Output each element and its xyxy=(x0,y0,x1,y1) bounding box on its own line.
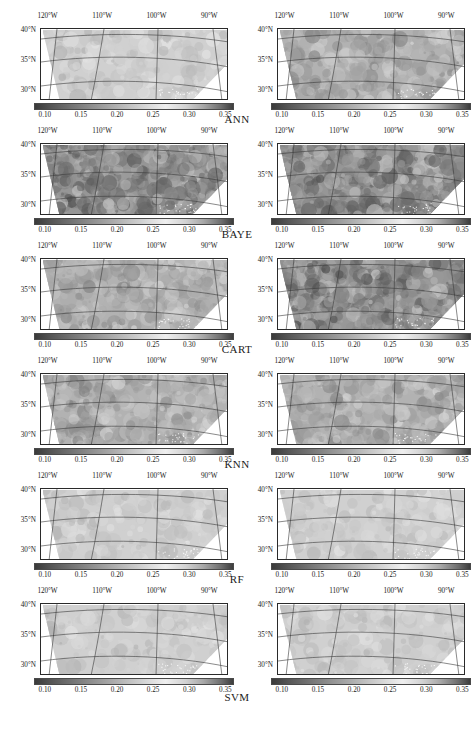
colorbar-gradient xyxy=(34,218,234,225)
raster-swath xyxy=(41,604,227,674)
map-frame xyxy=(277,28,465,100)
panel-row-ann: 120°W110°W100°W90°W40°N35°N30°N0.100.150… xyxy=(0,0,474,115)
raster-swath xyxy=(278,29,464,99)
rf-right-map: 120°W110°W100°W90°W40°N35°N30°N0.100.150… xyxy=(237,460,474,575)
x-tick-label: 110°W xyxy=(329,587,349,595)
y-tick-label: 40°N xyxy=(21,256,36,264)
colorbar: 0.100.150.200.250.300.35 xyxy=(34,448,234,455)
y-tick-label: 40°N xyxy=(258,26,273,34)
x-tick-label: 100°W xyxy=(384,472,404,480)
colorbar-gradient xyxy=(271,563,471,570)
knn-left-map: 120°W110°W100°W90°W40°N35°N30°N0.100.150… xyxy=(0,345,237,460)
x-tick-label: 110°W xyxy=(92,357,112,365)
colorbar-gradient xyxy=(271,103,471,110)
y-tick-label: 40°N xyxy=(258,486,273,494)
x-tick-label: 90°W xyxy=(201,242,217,250)
ann-left-map: 120°W110°W100°W90°W40°N35°N30°N0.100.150… xyxy=(0,0,237,115)
x-tick-label: 120°W xyxy=(38,357,58,365)
x-tick-label: 110°W xyxy=(329,12,349,20)
colorbar-gradient xyxy=(34,333,234,340)
x-tick-label: 110°W xyxy=(92,242,112,250)
map-grid-figure: 120°W110°W100°W90°W40°N35°N30°N0.100.150… xyxy=(0,0,474,730)
x-tick-label: 120°W xyxy=(275,587,295,595)
y-tick-label: 35°N xyxy=(21,286,36,294)
map-frame xyxy=(40,488,228,560)
y-tick-label: 35°N xyxy=(21,631,36,639)
y-tick-label: 40°N xyxy=(21,371,36,379)
x-tick-label: 90°W xyxy=(201,587,217,595)
map-plot-area xyxy=(40,373,228,445)
colorbar: 0.100.150.200.250.300.35 xyxy=(271,333,471,340)
colorbar-gradient xyxy=(34,678,234,685)
baye-right-map: 120°W110°W100°W90°W40°N35°N30°N0.100.150… xyxy=(237,115,474,230)
x-tick-label: 120°W xyxy=(38,12,58,20)
x-tick-label: 90°W xyxy=(438,587,454,595)
colorbar-gradient xyxy=(34,103,234,110)
x-tick-label: 90°W xyxy=(201,127,217,135)
x-tick-label: 90°W xyxy=(201,12,217,20)
knn-right-map: 120°W110°W100°W90°W40°N35°N30°N0.100.150… xyxy=(237,345,474,460)
raster-swath xyxy=(278,489,464,559)
colorbar: 0.100.150.200.250.300.35 xyxy=(34,218,234,225)
x-tick-label: 90°W xyxy=(201,472,217,480)
map-frame xyxy=(277,488,465,560)
y-tick-label: 30°N xyxy=(21,201,36,209)
map-plot-area xyxy=(40,28,228,100)
x-tick-label: 100°W xyxy=(147,242,167,250)
x-tick-label: 110°W xyxy=(92,587,112,595)
x-tick-label: 120°W xyxy=(38,472,58,480)
y-tick-label: 40°N xyxy=(21,601,36,609)
colorbar: 0.100.150.200.250.300.35 xyxy=(271,448,471,455)
colorbar: 0.100.150.200.250.300.35 xyxy=(34,103,234,110)
map-frame xyxy=(40,28,228,100)
baye-left-map: 120°W110°W100°W90°W40°N35°N30°N0.100.150… xyxy=(0,115,237,230)
y-tick-label: 30°N xyxy=(21,546,36,554)
y-tick-label: 40°N xyxy=(258,601,273,609)
x-tick-label: 100°W xyxy=(147,12,167,20)
y-tick-label: 40°N xyxy=(258,256,273,264)
colorbar-gradient xyxy=(271,448,471,455)
svm-right-map: 120°W110°W100°W90°W40°N35°N30°N0.100.150… xyxy=(237,575,474,690)
x-tick-label: 90°W xyxy=(438,472,454,480)
map-frame xyxy=(40,258,228,330)
raster-swath xyxy=(278,374,464,444)
map-frame xyxy=(277,373,465,445)
x-tick-label: 120°W xyxy=(38,127,58,135)
map-plot-area xyxy=(277,28,465,100)
colorbar-gradient xyxy=(271,218,471,225)
raster-swath xyxy=(278,259,464,329)
y-tick-label: 40°N xyxy=(21,486,36,494)
y-tick-label: 30°N xyxy=(258,661,273,669)
raster-swath xyxy=(41,144,227,214)
x-tick-label: 110°W xyxy=(329,472,349,480)
raster-swath xyxy=(278,604,464,674)
map-frame xyxy=(40,143,228,215)
x-tick-label: 110°W xyxy=(329,242,349,250)
map-plot-area xyxy=(40,143,228,215)
x-tick-label: 100°W xyxy=(384,12,404,20)
y-tick-label: 35°N xyxy=(21,171,36,179)
cart-left-map: 120°W110°W100°W90°W40°N35°N30°N0.100.150… xyxy=(0,230,237,345)
cart-right-map: 120°W110°W100°W90°W40°N35°N30°N0.100.150… xyxy=(237,230,474,345)
y-tick-label: 35°N xyxy=(258,516,273,524)
map-frame xyxy=(277,143,465,215)
x-tick-label: 90°W xyxy=(201,357,217,365)
colorbar: 0.100.150.200.250.300.35 xyxy=(271,563,471,570)
y-tick-label: 30°N xyxy=(21,86,36,94)
y-tick-label: 30°N xyxy=(21,431,36,439)
y-tick-label: 35°N xyxy=(258,401,273,409)
y-tick-label: 30°N xyxy=(258,546,273,554)
row-label-svm: SVM xyxy=(0,691,474,703)
map-frame xyxy=(277,258,465,330)
x-tick-label: 90°W xyxy=(438,127,454,135)
panel-row-knn: 120°W110°W100°W90°W40°N35°N30°N0.100.150… xyxy=(0,345,474,460)
map-frame xyxy=(40,373,228,445)
y-tick-label: 30°N xyxy=(258,86,273,94)
y-tick-label: 40°N xyxy=(258,141,273,149)
y-tick-label: 30°N xyxy=(258,201,273,209)
raster-swath xyxy=(41,374,227,444)
y-tick-label: 35°N xyxy=(258,56,273,64)
y-tick-label: 40°N xyxy=(21,141,36,149)
raster-swath xyxy=(278,144,464,214)
colorbar: 0.100.150.200.250.300.35 xyxy=(34,333,234,340)
